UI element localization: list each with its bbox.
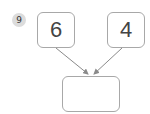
- arrow-left-icon: [56, 48, 88, 74]
- answer-box[interactable]: [62, 76, 120, 112]
- arrow-right-icon: [94, 48, 122, 74]
